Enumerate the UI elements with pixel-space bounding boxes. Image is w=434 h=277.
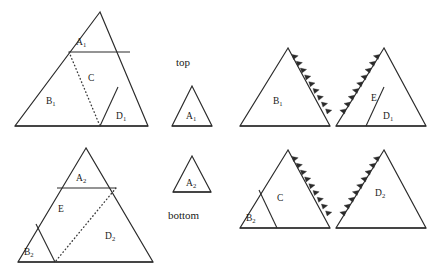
label-a2: A2 bbox=[76, 173, 86, 184]
assembled-triangle-d2: D2 bbox=[336, 150, 426, 228]
label-b2-piece: B2 bbox=[246, 213, 256, 224]
label-a1-piece: A1 bbox=[186, 111, 196, 122]
label-c: C bbox=[88, 73, 94, 83]
label-d2: D2 bbox=[105, 231, 115, 242]
e-d1-outline bbox=[336, 48, 426, 126]
row-label-bottom: bottom bbox=[168, 209, 200, 221]
diagram-canvas: A1 B1 C D1 A1 top bbox=[0, 0, 434, 277]
outer-triangle-outline bbox=[15, 12, 148, 126]
label-c-piece: C bbox=[277, 193, 283, 203]
small-triangle-a1: A1 bbox=[172, 86, 212, 126]
tooth-marks-right-b2-c bbox=[292, 157, 332, 216]
label-d1: D1 bbox=[116, 111, 126, 122]
label-d2-piece: D2 bbox=[375, 188, 385, 199]
label-e-piece: E bbox=[371, 93, 377, 103]
label-b2: B2 bbox=[24, 247, 34, 258]
assembled-triangle-b1: B1 bbox=[240, 48, 332, 126]
dotted-cut-line-bottom bbox=[55, 188, 116, 262]
cut-b2-c bbox=[259, 190, 277, 228]
tooth-marks-right-b1 bbox=[292, 55, 332, 114]
row-label-top: top bbox=[176, 56, 191, 68]
assembled-triangle-e-d1: E D1 bbox=[336, 48, 426, 126]
b2-c-outline bbox=[240, 150, 330, 228]
label-d1-piece: D1 bbox=[383, 111, 393, 122]
cut-b2-right bbox=[36, 224, 55, 262]
label-a2-piece: A2 bbox=[186, 178, 196, 189]
label-b1-piece: B1 bbox=[273, 96, 283, 107]
label-b1: B1 bbox=[46, 96, 56, 107]
source-triangle-top: A1 B1 C D1 bbox=[15, 12, 148, 126]
tooth-marks-left-e-d1 bbox=[340, 55, 380, 114]
assembled-triangle-b2-c: B2 C bbox=[240, 150, 332, 228]
dissection-diagram: A1 B1 C D1 A1 top bbox=[0, 0, 434, 277]
tooth-marks-left-d2 bbox=[340, 157, 380, 216]
label-e: E bbox=[58, 204, 64, 214]
b1-outline bbox=[240, 48, 330, 126]
dotted-cut-line bbox=[69, 52, 100, 126]
small-triangle-a2: A2 bbox=[173, 156, 211, 192]
label-a1: A1 bbox=[76, 37, 86, 48]
source-triangle-bottom: A2 E B2 D2 bbox=[18, 148, 153, 262]
outer-triangle-outline-bottom bbox=[18, 148, 153, 262]
